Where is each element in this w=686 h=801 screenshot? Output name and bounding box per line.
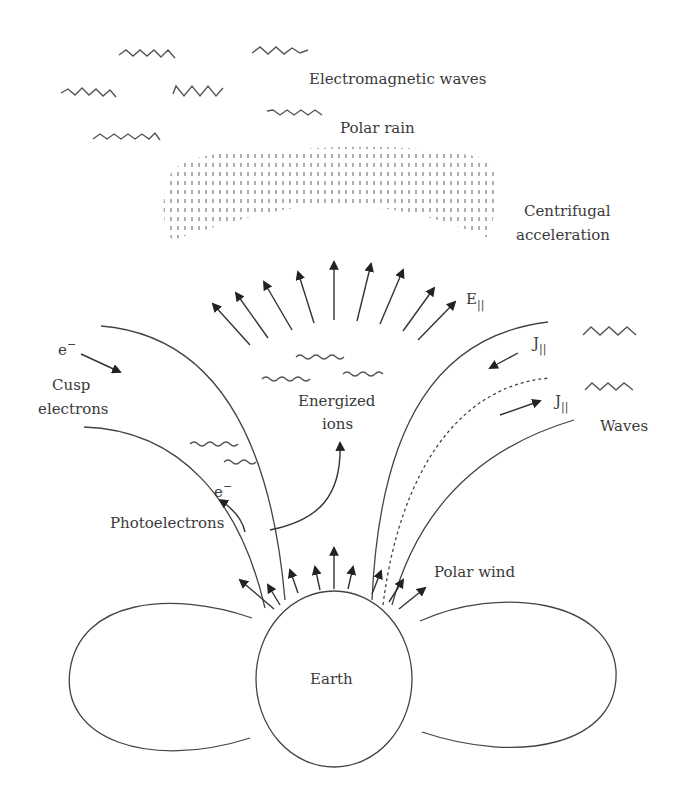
polar-rain-label: Polar rain	[340, 119, 415, 137]
e-parallel-label: E||	[466, 290, 484, 312]
wave-icon	[583, 327, 636, 335]
plasma-outflow-diagram: Electromagnetic waves Polar rain Centrif…	[0, 0, 686, 801]
em-wave-icon	[267, 110, 322, 115]
em-waves-group	[61, 47, 322, 140]
cusp-electron-arrow	[81, 354, 120, 372]
em-waves-label: Electromagnetic waves	[309, 70, 486, 88]
centrifugal-label-1: Centrifugal	[524, 202, 611, 220]
em-wave-icon	[252, 47, 308, 54]
photoelectrons-label: Photoelectrons	[110, 514, 224, 532]
wave-icon	[585, 383, 633, 390]
em-wave-icon	[61, 88, 116, 97]
j-parallel-label-2: J||	[553, 392, 568, 414]
waves-label: Waves	[600, 417, 648, 435]
j-parallel-arrow-down	[490, 353, 518, 368]
closed-field-lobe-right	[420, 602, 616, 747]
earth-label: Earth	[310, 670, 353, 688]
polar-wind-arrows	[240, 548, 425, 609]
energized-label-1: Energized	[298, 392, 376, 410]
e-minus-cusp-label: e−	[58, 338, 76, 359]
cusp-label-2: electrons	[38, 400, 109, 418]
cusp-label-1: Cusp	[52, 376, 90, 394]
centrifugal-arrows	[213, 262, 455, 345]
closed-field-lobe-left	[69, 603, 252, 750]
polar-wind-label: Polar wind	[434, 563, 515, 581]
energized-label-2: ions	[322, 415, 353, 433]
em-wave-icon	[93, 133, 160, 140]
em-wave-icon	[119, 50, 175, 58]
em-wave-icon	[173, 86, 223, 96]
energized-ion-arrow	[270, 443, 340, 530]
e-minus-photo-label: e−	[214, 480, 232, 501]
polar-rain-region	[164, 147, 496, 240]
field-line-right-outer	[372, 322, 548, 600]
field-line-left-outer	[101, 326, 285, 600]
j-parallel-label-1: J||	[531, 334, 546, 356]
centrifugal-label-2: acceleration	[516, 226, 610, 244]
j-parallel-arrow-up	[500, 401, 540, 415]
